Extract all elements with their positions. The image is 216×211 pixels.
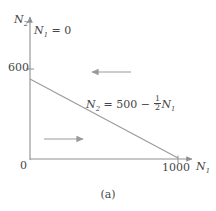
fraction-denominator: 2	[154, 104, 161, 112]
nullcline-variable: N	[34, 24, 44, 37]
x-axis-label-subscript: 1	[206, 167, 210, 175]
equation-lhs-variable: N	[86, 98, 96, 111]
x-axis-label-variable: N	[196, 160, 206, 173]
equation-intercept: 500	[116, 98, 137, 111]
equation-rhs-variable: N	[161, 98, 171, 111]
y-tick-label-600: 600	[8, 62, 29, 73]
equation-minus: −	[137, 98, 153, 111]
equation-rhs-subscript: 1	[171, 105, 175, 113]
nullcline-relation: = 0	[48, 24, 71, 37]
nullcline-equation-label: N2 = 500 − 12N1	[86, 95, 175, 113]
vertical-nullcline-label: N1 = 0	[34, 25, 71, 39]
y-axis-label-subscript: 2	[24, 20, 28, 28]
origin-label: 0	[20, 160, 27, 171]
equation-fraction: 12	[154, 95, 161, 112]
figure-panel: N2 N1 600 0 1000 N1 = 0 N2 = 500 − 12N1 …	[0, 0, 216, 211]
x-tick-label-1000: 1000	[162, 162, 190, 173]
equation-equals: =	[100, 98, 116, 111]
y-axis-label-variable: N	[14, 13, 24, 26]
y-axis-label: N2	[14, 14, 28, 28]
x-axis-label: N1	[196, 161, 210, 175]
figure-caption: (a)	[0, 188, 216, 201]
nullcline-line	[30, 79, 178, 158]
